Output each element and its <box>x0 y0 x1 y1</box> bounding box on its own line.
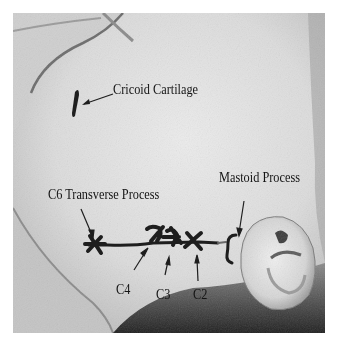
c3-label: C3 <box>156 287 170 302</box>
cricoid-cartilage-label: Cricoid Cartilage <box>113 82 198 97</box>
mastoid-process-label: Mastoid Process <box>219 170 300 185</box>
c2-label: C2 <box>193 287 207 302</box>
c4-label: C4 <box>116 282 130 297</box>
c6-transverse-process-label: C6 Transverse Process <box>48 187 159 202</box>
neck-landmark-photo: Cricoid Cartilage C6 Transverse Process … <box>13 13 325 333</box>
